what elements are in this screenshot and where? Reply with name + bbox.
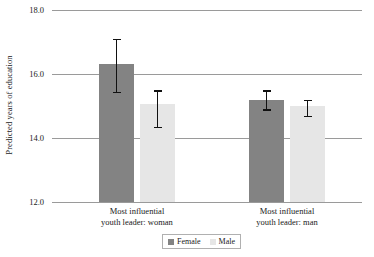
- legend-label: Male: [219, 237, 235, 246]
- legend-swatch-male: [210, 239, 216, 245]
- chart-figure: Predicted years of education 18.016.014.…: [0, 0, 374, 257]
- gridline: [62, 10, 362, 11]
- bar-male-group-2: [290, 106, 325, 202]
- error-bar-male-group-2: [290, 100, 325, 118]
- error-bar-stem: [266, 90, 268, 111]
- chart-legend: FemaleMale: [162, 234, 241, 249]
- x-axis-category-label-1: Most influentialyouth leader: woman: [62, 206, 212, 228]
- x-axis-category-label-line: youth leader: man: [212, 217, 362, 228]
- legend-label: Female: [177, 237, 201, 246]
- error-bar-male-group-1: [140, 90, 175, 128]
- error-bar-cap-top: [154, 90, 162, 92]
- y-axis-tick-mark: [52, 202, 62, 203]
- error-bar-cap-top: [304, 100, 312, 102]
- error-bar-stem: [157, 90, 159, 128]
- y-axis-tick-label: 16.0: [4, 70, 44, 79]
- error-bar-cap-top: [263, 90, 271, 92]
- x-axis-category-label-2: Most influentialyouth leader: man: [212, 206, 362, 228]
- y-axis-tick-label: 18.0: [4, 6, 44, 15]
- x-axis-category-label-line: Most influential: [212, 206, 362, 217]
- legend-entry-male[interactable]: Male: [210, 237, 235, 246]
- error-bar-cap-top: [113, 39, 121, 41]
- bar-female-group-2: [249, 100, 284, 202]
- legend-entry-female[interactable]: Female: [168, 237, 201, 246]
- error-bar-female-group-1: [99, 39, 134, 93]
- error-bar-stem: [307, 100, 309, 118]
- y-axis-tick-mark: [52, 10, 62, 11]
- y-axis-title: Predicted years of education: [0, 0, 18, 210]
- y-axis-tick-mark: [52, 74, 62, 75]
- legend-swatch-female: [168, 239, 174, 245]
- error-bar-cap-bottom: [263, 109, 271, 111]
- error-bar-female-group-2: [249, 90, 284, 111]
- x-axis-category-label-line: youth leader: woman: [62, 217, 212, 228]
- y-axis-tick-mark: [52, 138, 62, 139]
- x-axis-category-label-line: Most influential: [62, 206, 212, 217]
- error-bar-stem: [116, 39, 118, 93]
- error-bar-cap-bottom: [154, 127, 162, 129]
- error-bar-cap-bottom: [113, 92, 121, 94]
- error-bar-cap-bottom: [304, 116, 312, 118]
- gridline: [62, 202, 362, 203]
- y-axis-tick-label: 12.0: [4, 198, 44, 207]
- plot-area: 18.016.014.012.0: [62, 10, 362, 202]
- y-axis-tick-label: 14.0: [4, 134, 44, 143]
